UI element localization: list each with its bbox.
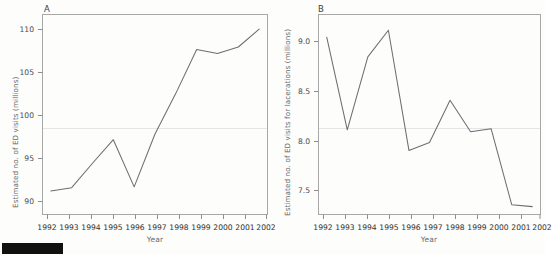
- panel-a-plot-area: [0, 0, 273, 255]
- panel-b-x-axis-title: Year: [318, 236, 540, 244]
- chart-panel-b: B Estimated no. of ED visits for lacerat…: [272, 0, 545, 255]
- panel-b-plot-area: [272, 0, 545, 255]
- panel-b-data-line: [327, 30, 533, 206]
- chart-panel-a: A Estimated no. of ED visits (millions) …: [0, 0, 272, 255]
- panel-a-data-line: [51, 29, 259, 191]
- panel-a-x-ticks: [48, 215, 267, 220]
- panel-b-y-ticks: [314, 42, 319, 191]
- panel-b-x-ticks: [324, 215, 541, 220]
- panel-a-y-ticks: [38, 30, 43, 202]
- panel-a-x-axis-title: Year: [42, 236, 268, 244]
- redaction-bar: [2, 243, 63, 254]
- panel-a-plot-frame: [43, 15, 268, 215]
